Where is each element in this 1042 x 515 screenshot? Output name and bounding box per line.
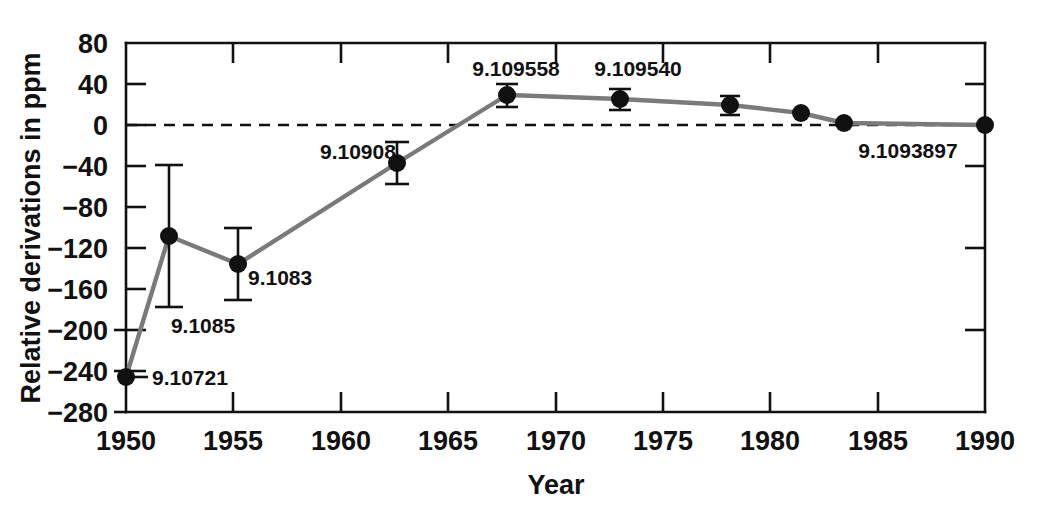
x-axis-title: Year [527,470,585,500]
x-tick-label-1960: 1960 [311,426,371,456]
x-tick-label-1970: 1970 [526,426,586,456]
y-tick-label-m200: −200 [47,316,108,346]
y-tick-label-0: 0 [93,111,108,141]
y-tick-label-m80: −80 [62,193,108,223]
y-tick-label-m280: −280 [47,398,108,428]
y-tick-label-m120: −120 [47,234,108,264]
x-tick-label-1980: 1980 [740,426,800,456]
series-line-relative-deviation [126,95,985,377]
annotation-9-1093897: 9.1093897 [858,139,957,162]
x-tick-label-1955: 1955 [203,426,263,456]
y-tick-label-m160: −160 [47,275,108,305]
y-tick-label-40: 40 [78,70,108,100]
y-tick-label-m240: −240 [47,357,108,387]
annotation-9-1085: 9.1085 [171,314,236,337]
x-axis-ticks [233,392,878,412]
annotation-9-10721: 9.10721 [152,366,228,389]
x-tick-label-1985: 1985 [848,426,908,456]
data-point-markers [117,86,994,386]
x-tick-label-1950: 1950 [96,426,156,456]
chart-figure: 9.10721 9.1085 9.1083 9.10908 9.109558 9… [0,0,1042,515]
annotation-9-109540: 9.109540 [594,57,682,80]
annotation-9-10908: 9.10908 [320,140,396,163]
line-chart-svg: 9.10721 9.1085 9.1083 9.10908 9.109558 9… [0,0,1042,515]
x-tick-label-1975: 1975 [633,426,693,456]
y-axis-title: Relative derivations in ppm [16,52,46,403]
y-tick-label-m40: −40 [62,152,108,182]
y-tick-label-80: 80 [78,29,108,59]
x-tick-label-1990: 1990 [955,426,1015,456]
annotation-9-1083: 9.1083 [248,266,312,289]
x-tick-label-1965: 1965 [418,426,478,456]
annotation-9-109558: 9.109558 [472,57,560,80]
error-bars [155,84,740,307]
